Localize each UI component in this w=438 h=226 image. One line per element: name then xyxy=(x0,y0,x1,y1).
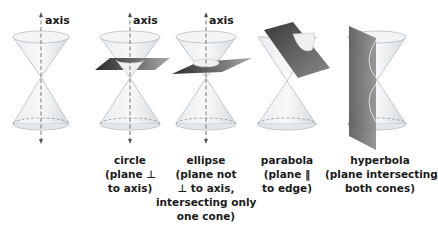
caption-line: to axis) xyxy=(105,181,155,195)
caption-line: (plane not xyxy=(156,167,256,181)
parabola-panel xyxy=(258,22,330,130)
caption-line: intersecting only xyxy=(156,195,256,209)
caption-line: (plane ‖ xyxy=(258,167,316,181)
ellipse-panel xyxy=(172,12,252,144)
caption-line: ellipse xyxy=(156,153,256,167)
caption-line: ⊥ to axis, xyxy=(156,181,256,195)
caption-line: (plane intersecting xyxy=(325,167,435,181)
axis-label-2: axis xyxy=(133,15,158,26)
caption-line: parabola xyxy=(258,153,316,167)
caption-line: hyperbola xyxy=(325,153,435,167)
caption-line: to edge) xyxy=(258,181,316,195)
caption-hyperbola: hyperbola (plane intersecting both cones… xyxy=(325,153,435,195)
caption-ellipse: ellipse (plane not ⊥ to axis, intersecti… xyxy=(156,153,256,223)
caption-line: both cones) xyxy=(325,181,435,195)
double-cone-panel xyxy=(13,12,69,144)
caption-circle: circle (plane ⊥ to axis) xyxy=(105,153,155,195)
axis-label-3: axis xyxy=(209,15,234,26)
caption-parabola: parabola (plane ‖ to edge) xyxy=(258,153,316,195)
caption-line: (plane ⊥ xyxy=(105,167,155,181)
axis-label-1: axis xyxy=(45,15,70,26)
caption-line: circle xyxy=(105,153,155,167)
caption-line: one cone) xyxy=(156,209,256,223)
circle-panel xyxy=(95,12,170,144)
hyperbola-panel xyxy=(348,26,406,150)
